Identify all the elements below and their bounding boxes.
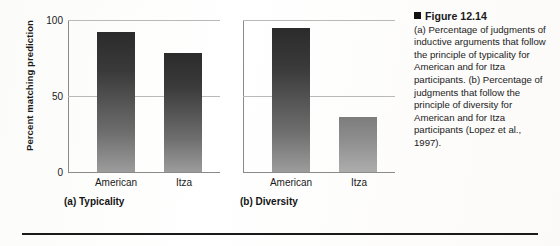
x-axis-line-a: [68, 172, 220, 173]
x-label-american-b: American: [256, 177, 326, 188]
chart-panel-typicality: 100 50 0 American Itza: [68, 20, 220, 172]
y-tick-100: 100: [46, 16, 63, 26]
bar-typicality-itza: [164, 53, 202, 172]
x-axis-line-b: [243, 172, 395, 173]
figure-caption-number: Figure 12.14: [425, 10, 487, 22]
x-label-itza-a: Itza: [149, 177, 219, 188]
chart-panel-diversity: American Itza: [243, 20, 395, 172]
square-bullet-icon: [414, 12, 421, 19]
x-label-american-a: American: [81, 177, 151, 188]
figure-caption: Figure 12.14 (a) Percentage of judgments…: [414, 10, 548, 150]
gridline-50-b: [243, 96, 395, 97]
bar-typicality-american: [97, 32, 135, 172]
x-label-itza-b: Itza: [324, 177, 394, 188]
figure-caption-title: Figure 12.14: [414, 10, 548, 23]
bar-diversity-itza: [339, 117, 377, 172]
figure-charts-area: Percent matching prediction 100 50 0 Ame…: [0, 0, 400, 235]
gridline-100-a: [68, 20, 220, 21]
gridline-100-b: [243, 20, 395, 21]
subplot-caption-a: (a) Typicality: [64, 196, 124, 207]
bottom-divider-rule: [22, 233, 538, 235]
figure-caption-text: (a) Percentage of judgments of inductive…: [414, 24, 548, 150]
y-axis-title: Percent matching prediction: [24, 1, 35, 171]
subplot-caption-b: (b) Diversity: [240, 196, 298, 207]
y-tick-0: 0: [57, 168, 63, 178]
bar-diversity-american: [272, 28, 310, 172]
y-tick-50: 50: [52, 92, 63, 102]
